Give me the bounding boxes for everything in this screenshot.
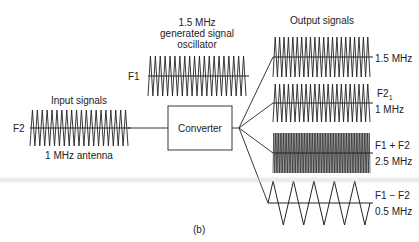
input-name: F2 — [13, 123, 25, 134]
outputs-title: Output signals — [273, 15, 371, 26]
oscillator-title-line1: 1.5 MHz — [148, 17, 246, 28]
converter-label: Converter — [168, 123, 232, 134]
oscillator-title: 1.5 MHz generated signal oscillator — [148, 17, 246, 50]
input-title: Input signals — [30, 95, 128, 106]
scan-artifact — [0, 176, 419, 184]
output-4-name: F1 − F2 — [375, 190, 410, 201]
output-3-name: F1 + F2 — [375, 140, 410, 151]
input-description: 1 MHz antenna — [30, 150, 128, 161]
oscillator-name: F1 — [128, 71, 140, 82]
figure-caption: (b) — [193, 224, 205, 235]
output-4-freq: 0.5 MHz — [375, 206, 412, 217]
output-2-name-main: F2 — [377, 88, 389, 99]
fanout-line-2 — [239, 103, 273, 128]
fanout-line-4 — [239, 128, 268, 203]
output-2-name: F21 — [377, 88, 393, 103]
output-2-name-sub: 1 — [389, 94, 393, 101]
oscillator-title-line2: generated signal — [148, 28, 246, 39]
output-2-freq: 1 MHz — [375, 104, 404, 115]
oscillator-title-line3: oscillator — [148, 39, 246, 50]
output-3-freq: 2.5 MHz — [375, 156, 412, 167]
output-1-freq: 1.5 MHz — [375, 53, 412, 64]
